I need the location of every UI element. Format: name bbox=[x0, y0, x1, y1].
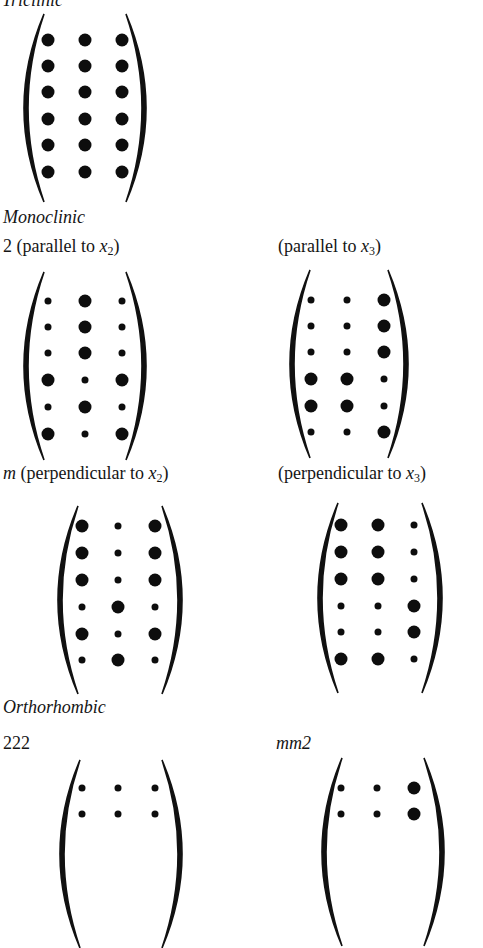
dot-large bbox=[378, 346, 391, 359]
dot-large bbox=[76, 628, 89, 641]
dot-large bbox=[79, 166, 92, 179]
label-var: x bbox=[361, 236, 369, 256]
dot-small bbox=[411, 576, 418, 583]
label-text: (perpendicular to bbox=[16, 463, 148, 483]
dot-small bbox=[119, 350, 126, 357]
dot-large bbox=[42, 374, 55, 387]
dot-large bbox=[116, 86, 129, 99]
dot-large bbox=[378, 320, 391, 333]
dot-small bbox=[411, 522, 418, 529]
dot-large bbox=[116, 139, 129, 152]
dot-large bbox=[79, 347, 92, 360]
dot-large bbox=[372, 573, 385, 586]
left-parenthesis bbox=[60, 760, 80, 948]
dot-small bbox=[115, 550, 122, 557]
dot-small bbox=[82, 377, 89, 384]
dot-large bbox=[149, 547, 162, 560]
dot-large bbox=[408, 600, 421, 613]
matrix-triclinic bbox=[10, 14, 160, 202]
dot-large bbox=[378, 426, 391, 439]
dot-large bbox=[42, 60, 55, 73]
dot-small bbox=[115, 523, 122, 530]
dot-large bbox=[378, 294, 391, 307]
dot-small bbox=[79, 604, 86, 611]
section-title-triclinic: Triclinic bbox=[2, 0, 63, 10]
dot-large bbox=[42, 86, 55, 99]
section-title-monoclinic: Monoclinic bbox=[3, 207, 85, 227]
dot-small bbox=[374, 785, 381, 792]
dot-large bbox=[408, 808, 421, 821]
dot-large bbox=[42, 428, 55, 441]
dot-large bbox=[42, 34, 55, 47]
label-text: 2 (parallel to bbox=[3, 236, 99, 256]
dot-small bbox=[381, 376, 388, 383]
dot-small bbox=[411, 549, 418, 556]
dot-large bbox=[408, 626, 421, 639]
matrix-orthorhombic-222 bbox=[46, 760, 196, 948]
label-text: ) bbox=[420, 463, 426, 483]
dot-small bbox=[45, 324, 52, 331]
label-text: ) bbox=[375, 236, 381, 256]
dot-small bbox=[79, 657, 86, 664]
dot-large bbox=[372, 653, 385, 666]
label-mm2: mm2 bbox=[276, 733, 311, 753]
dot-large bbox=[79, 139, 92, 152]
dot-small bbox=[344, 349, 351, 356]
dot-small bbox=[338, 811, 345, 818]
dot-small bbox=[338, 603, 345, 610]
section-title-orthorhombic: Orthorhombic bbox=[3, 697, 106, 717]
label-parallel-x3: (parallel to x3) bbox=[278, 236, 381, 261]
dot-large bbox=[305, 400, 318, 413]
matrix-monoclinic-2-parallel-x2 bbox=[10, 272, 160, 460]
dot-small bbox=[82, 431, 89, 438]
right-parenthesis bbox=[424, 758, 444, 946]
dot-large bbox=[79, 113, 92, 126]
label-m-perpendicular-x2: m (perpendicular to x2) bbox=[3, 463, 168, 488]
matrix-orthorhombic-mm2 bbox=[308, 758, 458, 946]
dot-small bbox=[119, 404, 126, 411]
left-parenthesis bbox=[318, 503, 338, 693]
matrix-parentheses bbox=[308, 758, 458, 946]
dot-large bbox=[79, 321, 92, 334]
label-var: x bbox=[406, 463, 414, 483]
dot-small bbox=[375, 603, 382, 610]
matrix-monoclinic-2-parallel-x3 bbox=[276, 270, 422, 458]
label-2-parallel-x2: 2 (parallel to x2) bbox=[3, 236, 119, 261]
dot-small bbox=[308, 429, 315, 436]
dot-small bbox=[344, 297, 351, 304]
right-parenthesis bbox=[162, 506, 182, 694]
dot-large bbox=[335, 519, 348, 532]
dot-small bbox=[45, 404, 52, 411]
dot-small bbox=[338, 785, 345, 792]
dot-small bbox=[115, 577, 122, 584]
dot-small bbox=[152, 785, 159, 792]
dot-large bbox=[341, 373, 354, 386]
dot-large bbox=[305, 373, 318, 386]
dot-small bbox=[79, 811, 86, 818]
dot-large bbox=[42, 113, 55, 126]
dot-small bbox=[374, 811, 381, 818]
dot-large bbox=[79, 34, 92, 47]
label-222: 222 bbox=[3, 733, 30, 753]
dot-small bbox=[45, 298, 52, 305]
dot-small bbox=[411, 656, 418, 663]
right-parenthesis bbox=[422, 503, 442, 693]
dot-large bbox=[112, 601, 125, 614]
dot-large bbox=[42, 166, 55, 179]
dot-large bbox=[112, 654, 125, 667]
label-text: (parallel to bbox=[278, 236, 361, 256]
dot-small bbox=[115, 811, 122, 818]
dot-small bbox=[119, 298, 126, 305]
label-text: (perpendicular to bbox=[278, 463, 406, 483]
dot-small bbox=[152, 657, 159, 664]
dot-large bbox=[116, 374, 129, 387]
dot-small bbox=[152, 604, 159, 611]
dot-small bbox=[308, 323, 315, 330]
label-text: ) bbox=[113, 236, 119, 256]
dot-large bbox=[116, 166, 129, 179]
dot-large bbox=[335, 546, 348, 559]
dot-large bbox=[79, 401, 92, 414]
dot-small bbox=[119, 324, 126, 331]
dot-large bbox=[335, 573, 348, 586]
dot-large bbox=[335, 653, 348, 666]
